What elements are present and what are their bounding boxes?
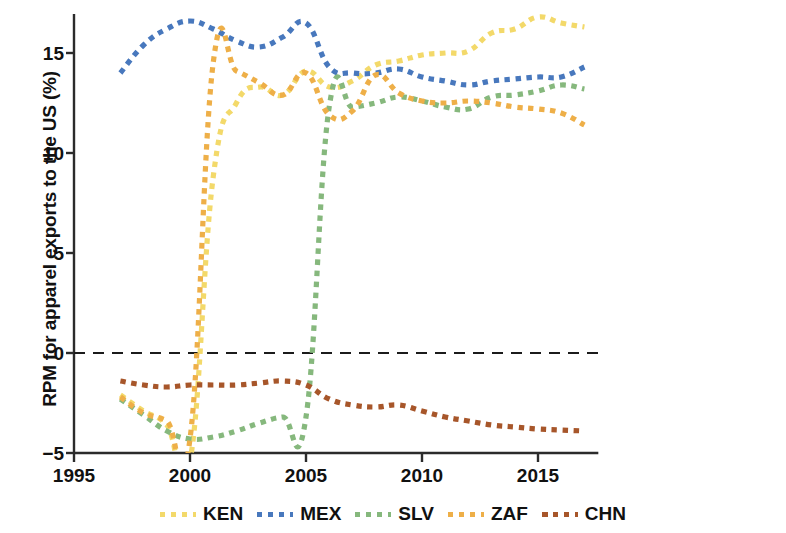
legend-label-mex: MEX [300, 503, 341, 525]
legend-item-mex[interactable]: MEX [257, 503, 341, 525]
y-axis-tick-0: −5 [8, 444, 64, 463]
chart-legend: KENMEXSLVZAFCHN [0, 503, 786, 525]
legend-item-zaf[interactable]: ZAF [448, 503, 528, 525]
x-axis-tick-4: 2015 [517, 465, 559, 487]
series-group [120, 17, 584, 480]
x-axis-tick-1: 2000 [169, 465, 211, 487]
legend-swatch-slv-icon [355, 512, 391, 517]
legend-swatch-chn-icon [542, 512, 578, 517]
plot-area [0, 0, 786, 533]
series-line-ken [120, 17, 584, 480]
legend-item-slv[interactable]: SLV [355, 503, 434, 525]
legend-label-slv: SLV [398, 503, 434, 525]
legend-swatch-ken-icon [160, 512, 196, 517]
y-axis-label: RPM for apparel exports to the US (%) [39, 9, 61, 469]
legend-swatch-zaf-icon [448, 512, 484, 517]
legend-item-chn[interactable]: CHN [542, 503, 626, 525]
x-axis-tick-3: 2010 [401, 465, 443, 487]
legend-swatch-mex-icon [257, 512, 293, 517]
legend-label-zaf: ZAF [491, 503, 528, 525]
legend-label-chn: CHN [585, 503, 626, 525]
series-line-zaf [120, 28, 584, 471]
series-line-slv [120, 77, 584, 447]
x-axis-tick-2: 2005 [285, 465, 327, 487]
y-axis-tick-1: 0 [8, 344, 64, 363]
y-axis-tick-4: 15 [8, 44, 64, 63]
chart-figure: RPM for apparel exports to the US (%) −5… [0, 0, 786, 533]
y-axis-tick-3: 10 [8, 144, 64, 163]
legend-label-ken: KEN [203, 503, 243, 525]
legend-item-ken[interactable]: KEN [160, 503, 243, 525]
y-axis-tick-2: 5 [8, 244, 64, 263]
x-axis-tick-0: 1995 [53, 465, 95, 487]
